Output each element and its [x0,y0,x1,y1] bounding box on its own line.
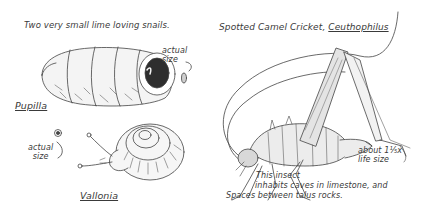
habitat-line-3: Spaces between talus rocks. [226,191,343,200]
cricket-genus: Ceuthophilus [328,22,388,32]
pupilla-label: Pupilla [15,100,47,111]
vallonia-label: Vallonia [80,190,118,201]
vallonia-size-note: actual size [28,143,53,161]
snails-title: Two very small lime loving snails. [24,20,170,30]
vallonia-snail-icon [78,124,184,180]
pupilla-shell-icon [42,47,175,106]
pupilla-size-note: actual size [162,46,187,64]
cricket-title: Spotted Camel Cricket, Ceuthophilus [219,22,389,32]
cricket-scale-note: about 1⅕x life size [358,146,402,164]
cricket-icon [223,12,410,200]
pupilla-actual-size-icon [182,73,187,83]
habitat-line-1: This insect [256,171,300,180]
illustration-canvas: Two very small lime loving snails. actua… [0,0,430,211]
habitat-line-2: inhabits caves in limestone, and [255,181,388,190]
cricket-common-name: Spotted Camel Cricket, [219,22,328,32]
